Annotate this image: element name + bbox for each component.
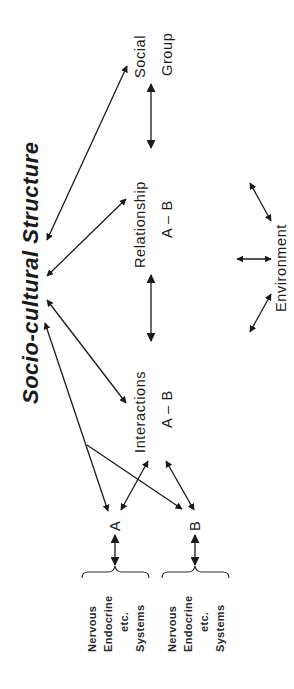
diagram-title: Socio-cultural Structure [18,141,43,404]
systems-a-label: Nervous Endocrine etc. Systems [86,596,146,653]
node-individual-a: A [107,521,123,531]
brace-systems-a [82,566,149,578]
arrow-environment-lower [250,294,271,332]
node-environment: Environment [273,224,289,312]
interactions-line1: Interactions [132,371,148,453]
arrow-structure-relationship [47,199,126,276]
socio-cultural-diagram: Socio-cultural Structure Social Group Re… [0,0,294,689]
systems-a-line3: etc. [118,612,130,632]
arrow-interactions-b [166,461,194,510]
systems-b-line1: Nervous [166,606,178,652]
relationship-line1: Relationship [132,181,148,268]
relationship-line2: A – B [159,200,175,238]
arrow-environment-upper [250,183,271,221]
systems-b-line4: Systems [214,605,226,652]
systems-b-line3: etc. [198,612,210,632]
node-individual-b: B [187,521,203,531]
systems-a-line2: Endocrine [102,596,114,653]
systems-a-line1: Nervous [86,606,98,652]
systems-b-line2: Endocrine [182,596,194,653]
node-interactions: Interactions A – B [132,371,175,453]
interactions-line2: A – B [159,390,175,428]
social-group-line1: Social [132,35,148,78]
arrow-interactions-a [121,461,148,510]
systems-a-line4: Systems [134,605,146,652]
brace-systems-b [162,566,229,578]
arrow-structure-a [45,323,108,511]
social-group-line2: Group [159,33,175,76]
arrow-structure-social-group [47,66,127,240]
systems-b-label: Nervous Endocrine etc. Systems [166,596,226,653]
arrow-structure-interactions [47,300,126,403]
node-social-group: Social Group [132,33,175,78]
node-relationship: Relationship A – B [132,181,175,268]
arrow-structure-b [87,445,182,509]
